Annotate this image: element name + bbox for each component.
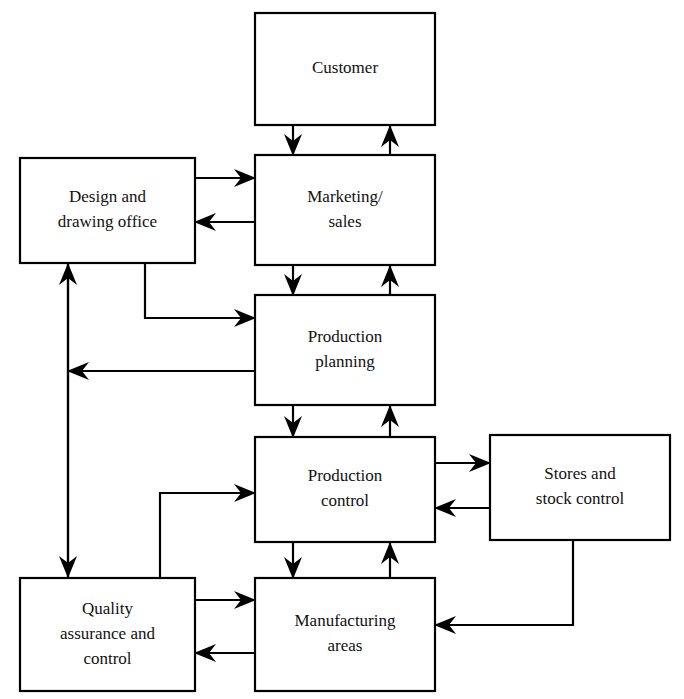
node-label: Customer bbox=[312, 58, 378, 77]
flowchart-canvas: CustomerDesign anddrawing officeMarketin… bbox=[0, 0, 684, 699]
node-manufacturing-areas[interactable]: Manufacturingareas bbox=[255, 578, 435, 691]
node-label-line: control bbox=[83, 648, 131, 667]
node-label-line: assurance and bbox=[60, 623, 155, 642]
edge-design-to-planning bbox=[145, 263, 256, 327]
node-label-line: Marketing/ bbox=[307, 186, 383, 205]
node-box[interactable] bbox=[20, 158, 195, 263]
edge-stores-to-control bbox=[434, 499, 490, 517]
node-label-line: areas bbox=[328, 636, 363, 655]
node-box[interactable] bbox=[255, 578, 435, 691]
node-design-and-drawing-office[interactable]: Design anddrawing office bbox=[20, 158, 195, 263]
edge-planning-to-marketing bbox=[381, 265, 399, 295]
edge-marketing-to-planning bbox=[284, 265, 302, 296]
node-box[interactable] bbox=[490, 435, 670, 540]
edge-customer-to-marketing bbox=[284, 125, 302, 156]
node-label-line: planning bbox=[315, 351, 375, 370]
node-production-planning[interactable]: Productionplanning bbox=[255, 295, 435, 405]
node-label-line: control bbox=[321, 491, 369, 510]
node-label-line: Stores and bbox=[544, 464, 616, 483]
edge-quality-to-control bbox=[160, 484, 256, 578]
edge-design-to-marketing bbox=[195, 169, 256, 187]
edge-design-quality-vertical-down bbox=[59, 264, 77, 578]
node-label-line: Design and bbox=[69, 187, 146, 206]
edge-line bbox=[160, 493, 255, 578]
edge-control-to-manufacturing bbox=[284, 542, 302, 579]
edge-quality-to-manufacturing bbox=[195, 591, 256, 609]
edge-control-to-stores bbox=[435, 454, 491, 472]
node-label-line: sales bbox=[328, 211, 361, 230]
node-box[interactable] bbox=[255, 295, 435, 405]
node-customer[interactable]: Customer bbox=[255, 13, 435, 125]
node-label-line: stock control bbox=[536, 489, 625, 508]
node-stores-and-stock-control[interactable]: Stores andstock control bbox=[490, 435, 670, 540]
edge-manufacturing-to-quality bbox=[194, 644, 255, 662]
node-label-line: drawing office bbox=[58, 212, 157, 231]
node-label-line: Manufacturing bbox=[294, 611, 396, 630]
node-label-line: Customer bbox=[312, 58, 378, 77]
node-label-line: Production bbox=[308, 466, 383, 485]
edge-planning-to-design bbox=[67, 362, 255, 380]
edge-manufacturing-to-control bbox=[381, 542, 399, 578]
edge-planning-to-control bbox=[284, 405, 302, 438]
node-marketing-sales[interactable]: Marketing/sales bbox=[255, 155, 435, 265]
edge-control-to-planning bbox=[381, 405, 399, 437]
edge-stores-to-manufacturing bbox=[434, 540, 573, 634]
node-label-line: Quality bbox=[82, 598, 133, 617]
node-production-control[interactable]: Productioncontrol bbox=[255, 437, 435, 542]
node-box[interactable] bbox=[255, 437, 435, 542]
node-box[interactable] bbox=[255, 155, 435, 265]
edge-line bbox=[436, 540, 573, 625]
node-quality-assurance-and-control[interactable]: Qualityassurance andcontrol bbox=[20, 578, 195, 691]
edge-marketing-to-customer bbox=[381, 125, 399, 155]
edge-marketing-to-design bbox=[194, 213, 255, 231]
edge-line bbox=[145, 263, 255, 318]
node-label-line: Production bbox=[308, 326, 383, 345]
